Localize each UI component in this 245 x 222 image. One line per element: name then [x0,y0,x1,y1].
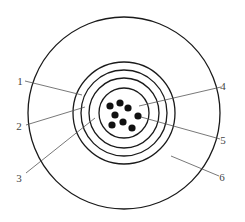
cable-cross-section-diagram: 123456 [0,0,245,222]
callout-label-5: 5 [220,134,226,146]
fiber-dot [106,102,113,109]
leader-line-2 [26,107,85,125]
leader-line-5 [141,117,220,139]
fiber-dot [111,111,118,118]
fiber-dot [108,121,115,128]
leader-line-6 [171,156,219,176]
leader-lines [25,81,221,176]
ring-1 [73,62,175,164]
leader-line-4 [139,87,221,106]
concentric-rings [73,62,175,164]
callout-label-3: 3 [16,172,22,184]
callout-label-4: 4 [220,80,226,92]
fiber-dot [116,99,123,106]
fiber-dot [128,124,135,131]
callout-labels: 123456 [16,75,226,184]
callout-label-2: 2 [16,120,22,132]
ring-4-core [99,88,149,138]
leader-line-1 [25,81,82,95]
fiber-dot [134,112,141,119]
ring-2 [81,70,167,156]
callout-label-6: 6 [219,171,225,183]
fiber-dot [124,104,131,111]
outer-sheath-circle [28,17,220,209]
fiber-dots [106,99,141,131]
callout-label-1: 1 [17,75,23,87]
fiber-dot [119,118,126,125]
